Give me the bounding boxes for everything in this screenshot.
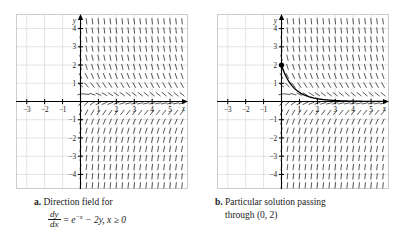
y-axis-label: y <box>273 16 278 25</box>
x-tick-label: 1 <box>97 106 101 114</box>
caption-b-marker: b. <box>215 197 223 207</box>
x-tick-label: −1 <box>59 106 67 114</box>
x-tick-label: 1 <box>298 106 302 114</box>
x-tick-label: 3 <box>333 106 337 114</box>
y-tick-label: 4 <box>72 25 76 33</box>
x-tick-label: −2 <box>242 106 250 114</box>
slope-mark <box>83 94 89 95</box>
equation-right-side: = e−x − 2y, x ≥ 0 <box>64 211 127 227</box>
panel-a: −3−2−112345−4−3−2−11234xy a. Direction f… <box>0 0 197 250</box>
direction-field-plot-a: −3−2−112345−4−3−2−11234xy <box>16 14 188 189</box>
x-axis-label: x <box>382 104 387 113</box>
exponential-exponent: −x <box>75 213 82 220</box>
y-tick-label: −4 <box>269 171 277 179</box>
x-tick-label: 2 <box>316 106 320 114</box>
caption-a-marker: a. <box>34 197 41 207</box>
caption-b-text: Particular solution passing <box>225 197 326 207</box>
direction-field-plot-b: −3−2−112345−4−3−2−11234xy <box>217 14 389 189</box>
x-tick-label: −3 <box>224 106 232 114</box>
panel-b: −3−2−112345−4−3−2−11234xy b. Particular … <box>197 0 394 250</box>
y-tick-label: 2 <box>273 62 277 70</box>
derivative-fraction: dy dx <box>48 210 61 229</box>
x-tick-label: −3 <box>23 106 31 114</box>
caption-b: b. Particular solution passing through (… <box>197 196 395 221</box>
y-tick-label: −3 <box>68 153 76 161</box>
x-tick-label: −1 <box>260 106 268 114</box>
y-axis-label: y <box>72 16 77 25</box>
figure-container: −3−2−112345−4−3−2−11234xy a. Direction f… <box>0 0 395 250</box>
initial-point-marker <box>279 62 284 67</box>
y-tick-label: −1 <box>269 116 277 124</box>
equals-sign: = <box>64 215 69 225</box>
y-tick-label: −3 <box>269 153 277 161</box>
y-tick-label: 4 <box>273 25 277 33</box>
plot-b: −3−2−112345−4−3−2−11234xy <box>217 14 389 189</box>
slope-mark <box>284 94 290 95</box>
y-tick-label: 3 <box>273 43 277 51</box>
x-tick-label: 4 <box>351 106 355 114</box>
x-tick-label: 4 <box>150 106 154 114</box>
x-tick-label: 2 <box>115 106 119 114</box>
fraction-numerator: dy <box>48 210 61 219</box>
y-tick-label: −2 <box>269 135 277 143</box>
y-tick-label: −2 <box>68 135 76 143</box>
fraction-denominator: dx <box>48 219 61 229</box>
y-tick-label: −1 <box>68 116 76 124</box>
caption-b-text-line2: through (0, 2) <box>215 209 395 222</box>
y-tick-label: −4 <box>68 171 76 179</box>
x-tick-label: 3 <box>132 106 136 114</box>
caption-a-text: Direction field for <box>44 197 113 207</box>
slope-mark <box>287 182 288 188</box>
x-axis-label: x <box>181 104 186 113</box>
x-tick-label: 5 <box>369 106 373 114</box>
y-tick-label: 1 <box>273 80 277 88</box>
y-tick-label: 3 <box>72 43 76 51</box>
x-tick-label: 5 <box>168 106 172 114</box>
slope-mark <box>86 182 87 188</box>
equation-remainder: − 2y, x ≥ 0 <box>85 215 126 225</box>
y-tick-label: 2 <box>72 62 76 70</box>
y-tick-label: 1 <box>72 80 76 88</box>
plot-a: −3−2−112345−4−3−2−11234xy <box>16 14 188 189</box>
x-tick-label: −2 <box>41 106 49 114</box>
